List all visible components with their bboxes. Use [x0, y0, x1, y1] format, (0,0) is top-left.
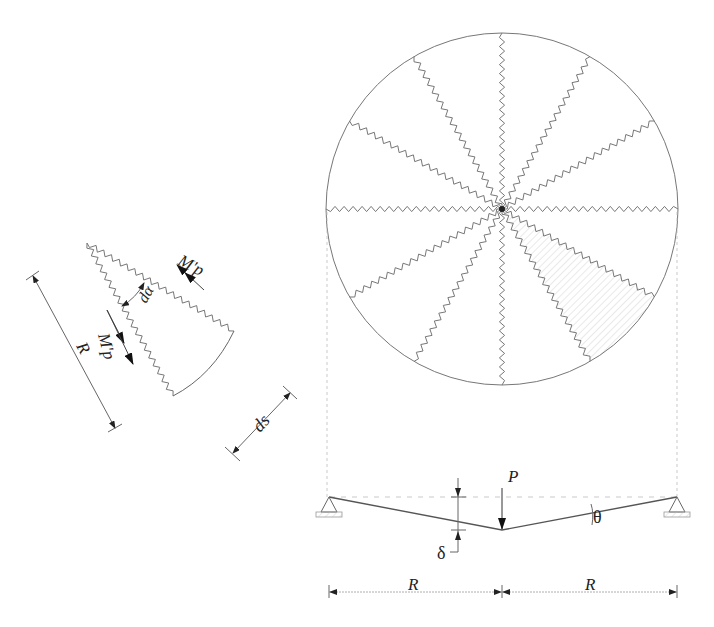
radial-yield-line [502, 121, 654, 209]
right-support [664, 497, 690, 517]
deflected-beam [329, 497, 677, 530]
label-span-right: R [584, 575, 596, 594]
deflected-section: P δ θ R R [316, 467, 690, 598]
label-moment-side: M'p [94, 330, 119, 361]
left-support [316, 497, 342, 517]
ds-dim-tick-2 [283, 386, 297, 399]
label-angle: dα [134, 282, 157, 305]
label-span-left: R [407, 575, 419, 594]
radial-yield-line [502, 206, 678, 211]
yield-line-diagram: M'p M'p dα R ds P δ θ [0, 0, 714, 627]
label-rotation: θ [593, 507, 602, 527]
element-arc [173, 331, 234, 396]
radius-dim-tick-top [26, 271, 39, 280]
radial-yield-line [414, 57, 502, 209]
label-load: P [507, 467, 518, 486]
label-deflection: δ [437, 543, 445, 563]
radial-yield-line [499, 33, 504, 209]
circular-plate [326, 33, 678, 385]
radial-yield-line [350, 209, 502, 297]
radius-dim-tick-bottom [108, 424, 122, 432]
ds-dim-tick-1 [225, 447, 240, 461]
deflection-arrow-top [455, 488, 461, 497]
radial-yield-line [326, 206, 502, 211]
label-moment-top: M'p [174, 250, 207, 280]
deflection-arrow-bottom [455, 531, 461, 540]
sector-element: M'p M'p dα R ds [26, 243, 297, 461]
plate-center-hinge [499, 206, 505, 212]
element-left-yield-line [87, 243, 173, 396]
radial-yield-line [499, 209, 504, 385]
